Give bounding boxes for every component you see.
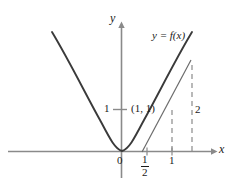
x-tick-label-half: 1 2 [141, 154, 149, 178]
x-axis-arrowhead [211, 148, 218, 154]
fraction-denominator: 2 [141, 167, 149, 179]
y-tick-label-one: 1 [104, 103, 110, 114]
function-label: y = f(x) [152, 30, 185, 41]
origin-label: 0 [117, 155, 123, 166]
y-axis-label: y [110, 12, 115, 24]
y-axis-arrowhead [118, 22, 124, 29]
fraction-one-half: 1 2 [141, 154, 149, 178]
x-tick-label-one: 1 [169, 155, 175, 166]
graph-figure: y x y = f(x) 1 0 1 (1, 1) 2 1 2 [0, 0, 236, 189]
fraction-numerator: 1 [141, 154, 149, 166]
x-axis-label: x [219, 143, 224, 155]
rise-label: 2 [195, 104, 201, 115]
point-label: (1, 1) [131, 103, 155, 114]
x-axis [8, 148, 218, 154]
